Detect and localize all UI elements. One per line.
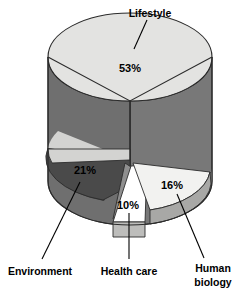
category-label-human-biology-line1: Human xyxy=(195,262,231,274)
pie-chart-svg: 53% 21% 10% 16% Lifestyle Environment He… xyxy=(0,0,247,296)
category-label-environment: Environment xyxy=(8,265,73,277)
value-label-environment: 21% xyxy=(74,164,96,176)
value-label-human-biology: 16% xyxy=(161,179,183,191)
pie-chart-figure: 53% 21% 10% 16% Lifestyle Environment He… xyxy=(0,0,247,296)
value-label-lifestyle: 53% xyxy=(119,62,141,74)
category-label-human-biology-line2: biology xyxy=(194,276,231,288)
value-label-health-care: 10% xyxy=(117,199,139,211)
slice-lifestyle-top xyxy=(48,13,212,101)
category-label-lifestyle: Lifestyle xyxy=(129,7,172,19)
category-label-health-care: Health care xyxy=(101,265,158,277)
pie-top-surface xyxy=(48,13,212,101)
slice-environment-upper-wedge xyxy=(48,149,130,163)
